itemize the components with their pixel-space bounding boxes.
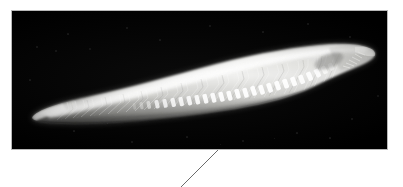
specimen-render xyxy=(11,10,388,150)
specimen-imaging-panel[interactable] xyxy=(11,10,388,150)
callout-leader-line xyxy=(181,150,218,187)
figure-root xyxy=(0,0,403,187)
